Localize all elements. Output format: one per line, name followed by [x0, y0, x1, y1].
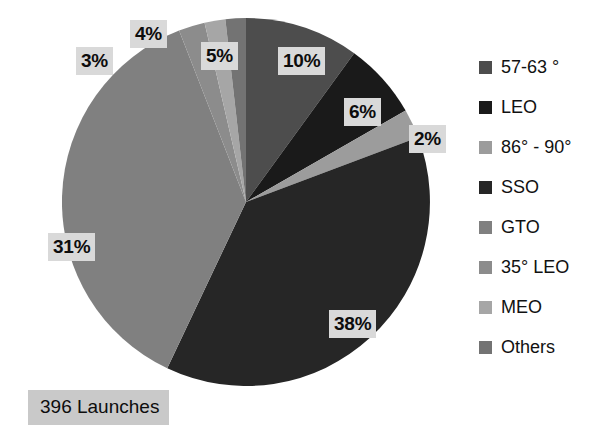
slice-label-others: 3% [76, 47, 113, 75]
legend-item-leo[interactable]: LEO [479, 87, 611, 127]
slice-label-sso: 38% [329, 310, 376, 338]
legend-swatch-icon [479, 261, 492, 274]
legend-item-57-63[interactable]: 57-63 ° [479, 47, 611, 87]
legend-swatch-icon [479, 101, 492, 114]
slice-label-meo: 4% [130, 20, 167, 48]
legend-item-label: MEO [501, 298, 542, 316]
legend-item-others[interactable]: Others [479, 327, 611, 367]
slice-label-57-63: 10% [278, 47, 325, 75]
slice-label-leo: 6% [344, 98, 381, 126]
legend-item-label: SSO [501, 178, 539, 196]
legend-swatch-icon [479, 341, 492, 354]
pie-plot-area: 10% 6% 2% 38% 31% 5% 4% 3% 396 Launches [0, 0, 466, 447]
slice-label-86-90: 2% [409, 125, 446, 153]
legend-item-35-leo[interactable]: 35° LEO [479, 247, 611, 287]
chart-legend: 57-63 ° LEO 86° - 90° SSO GTO 35° LEO ME… [479, 47, 611, 367]
legend-swatch-icon [479, 61, 492, 74]
legend-item-label: Others [501, 338, 555, 356]
legend-item-meo[interactable]: MEO [479, 287, 611, 327]
legend-item-sso[interactable]: SSO [479, 167, 611, 207]
total-launches-callout: 396 Launches [28, 390, 169, 425]
legend-item-86-90[interactable]: 86° - 90° [479, 127, 611, 167]
legend-swatch-icon [479, 181, 492, 194]
legend-item-label: GTO [501, 218, 540, 236]
legend-item-label: LEO [501, 98, 537, 116]
slice-label-gto: 31% [48, 233, 95, 261]
legend-swatch-icon [479, 221, 492, 234]
legend-item-label: 86° - 90° [501, 138, 571, 156]
slice-label-35-leo: 5% [201, 42, 238, 70]
legend-item-label: 35° LEO [501, 258, 569, 276]
legend-swatch-icon [479, 141, 492, 154]
legend-item-label: 57-63 ° [501, 58, 559, 76]
pie-chart: 10% 6% 2% 38% 31% 5% 4% 3% 396 Launches … [0, 0, 614, 447]
legend-swatch-icon [479, 301, 492, 314]
legend-item-gto[interactable]: GTO [479, 207, 611, 247]
